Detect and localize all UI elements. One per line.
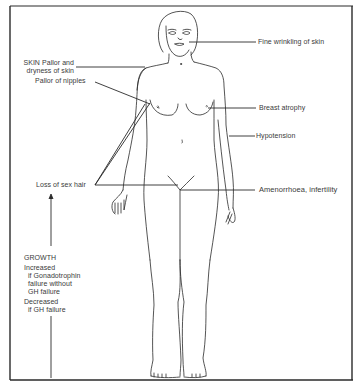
label-skin-line1: SKIN Pallor and — [20, 59, 74, 67]
growth-title: GROWTH — [24, 254, 81, 262]
female-body-outline — [112, 11, 235, 377]
left-foot — [151, 373, 180, 378]
label-amenorrhoea: Amenorrhoea, infertility — [259, 186, 337, 194]
growth-increased: Increased — [24, 264, 81, 272]
right-hand — [226, 208, 235, 224]
right-eye — [183, 32, 190, 35]
growth-arrow-up-head — [49, 194, 53, 199]
pubic-area — [168, 176, 194, 190]
right-breast — [186, 102, 213, 115]
label-growth: GROWTH Increased if Gonadotrophin failur… — [24, 254, 81, 314]
face-outline — [166, 26, 189, 56]
label-hypotension: Hypotension — [256, 132, 295, 140]
mouth — [175, 43, 184, 45]
growth-increased-l3: failure without — [24, 280, 81, 288]
label-pallor-nipples: Pallor of nipples — [35, 77, 86, 85]
growth-decreased-l2: if GH failure — [24, 306, 81, 314]
label-fine-wrinkling: Fine wrinkling of skin — [258, 38, 324, 46]
growth-increased-l2: if Gonadotrophin — [24, 272, 81, 280]
head-hair-outline — [158, 11, 197, 55]
leader-pallor-nipples — [95, 82, 150, 104]
label-breast-atrophy: Breast atrophy — [259, 104, 305, 112]
label-loss-sex-hair: Loss of sex hair — [36, 181, 86, 189]
right-foot — [184, 374, 206, 378]
growth-increased-l4: GH failure — [24, 288, 81, 296]
label-skin: SKIN Pallor and dryness of skin — [20, 59, 74, 75]
left-breast — [150, 100, 178, 115]
left-eye — [169, 32, 176, 35]
label-skin-line2: dryness of skin — [20, 67, 74, 75]
left-hand — [112, 190, 127, 214]
growth-decreased: Decreased — [24, 298, 81, 306]
